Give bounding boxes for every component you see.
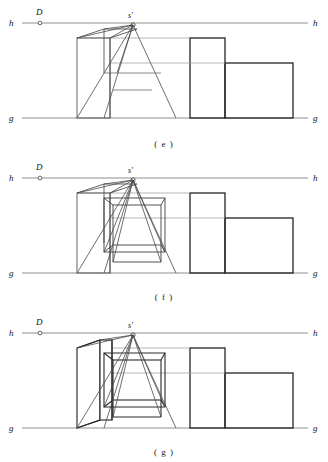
figure-sheet: h h g g D s' ( e ) xyxy=(0,0,328,462)
station-point-label-e: s' xyxy=(128,11,133,20)
ground-label-left-g: g xyxy=(9,423,14,433)
distance-point-marker-f xyxy=(38,176,42,180)
horizon-label-left-e: h xyxy=(9,18,14,28)
distance-point-marker-e xyxy=(38,21,42,25)
distance-point-label-e: D xyxy=(35,7,43,17)
distance-point-marker-g xyxy=(38,331,42,335)
distance-point-label-g: D xyxy=(35,317,43,327)
caption-g: ( g ) xyxy=(154,447,174,457)
distance-point-label-f: D xyxy=(35,162,43,172)
horizon-label-right-f: h xyxy=(313,173,318,183)
horizon-label-left-g: h xyxy=(9,328,14,338)
page-background xyxy=(0,0,328,462)
horizon-label-left-f: h xyxy=(9,173,14,183)
horizon-label-right-g: h xyxy=(313,328,318,338)
caption-e: ( e ) xyxy=(154,139,174,149)
station-point-label-f: s' xyxy=(128,166,133,175)
ground-label-left-e: g xyxy=(9,113,14,123)
station-point-label-g: s' xyxy=(128,321,133,330)
caption-f: ( f ) xyxy=(155,292,174,302)
ground-label-right-e: g xyxy=(313,113,318,123)
ground-label-left-f: g xyxy=(9,268,14,278)
horizon-label-right-e: h xyxy=(313,18,318,28)
ground-label-right-g: g xyxy=(313,423,318,433)
ground-label-right-f: g xyxy=(313,268,318,278)
perspective-construction-figure: h h g g D s' ( e ) xyxy=(0,0,328,462)
